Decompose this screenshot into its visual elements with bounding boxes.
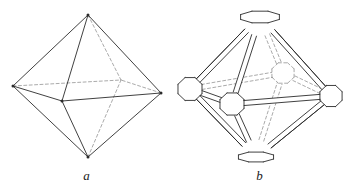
truncated-octahedron-drawing <box>173 0 346 196</box>
octahedron-vertex <box>160 92 163 95</box>
octahedron-edge <box>13 15 88 86</box>
bevel-rail-hidden <box>265 36 276 64</box>
silhouette-edge <box>197 29 245 79</box>
octahedron-vertex <box>87 156 90 159</box>
octahedron-hidden-edges <box>13 15 161 157</box>
vertex-face-hidden-edge <box>272 63 278 69</box>
figure-a: a <box>0 0 173 196</box>
bevel-rail-hidden <box>264 84 282 141</box>
figure-plate: a b <box>0 0 346 196</box>
bevel-face-fill <box>268 101 324 148</box>
octahedron-edge <box>62 93 161 101</box>
octahedron-vertex <box>61 100 64 103</box>
octahedron-vertex <box>87 14 90 17</box>
octahedron-hidden-edge <box>88 15 121 80</box>
silhouette-edge <box>271 105 324 148</box>
octahedron-edge <box>13 86 88 157</box>
figure-b: b <box>173 0 346 196</box>
octahedron-edge <box>62 101 88 157</box>
vertex-face-hidden-edge <box>272 77 278 83</box>
octahedron-hidden-edge <box>88 80 121 157</box>
bevel-face-fill <box>271 30 325 90</box>
bevel-rail <box>238 36 256 93</box>
octahedron-vertex <box>12 85 15 88</box>
vertex-face-hidden-edge <box>288 63 294 69</box>
bevel-rail <box>268 101 321 144</box>
octahedron-drawing <box>0 0 173 196</box>
figure-b-caption: b <box>173 168 346 184</box>
octahedron-edge <box>88 93 161 157</box>
truncated-octahedron-hidden-edges <box>201 34 322 141</box>
figure-a-caption: a <box>0 168 173 184</box>
bevel-rail-hidden <box>259 83 277 140</box>
silhouette-edge <box>275 30 326 86</box>
bevel-rail <box>271 33 322 89</box>
